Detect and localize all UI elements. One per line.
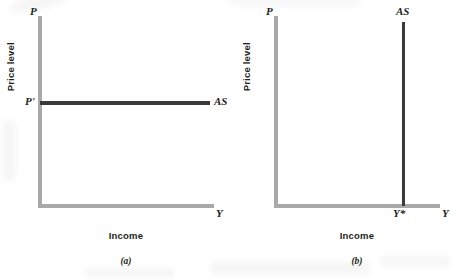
panel-b-as-curve xyxy=(402,22,405,206)
panel-a-as-curve xyxy=(40,101,210,105)
panel-a-keynesian-aggregate-supply: P P' AS Y Price level Income (a) xyxy=(0,0,230,280)
panel-a-caption: (a) xyxy=(38,256,214,266)
panel-b-output-marker: Y* xyxy=(393,208,405,219)
panel-b-as-curve-label: AS xyxy=(396,6,409,17)
panel-b-y-axis-title: Price level xyxy=(242,38,252,96)
panel-b-vertical-axis xyxy=(274,16,278,208)
panel-b-horizontal-axis xyxy=(274,204,440,208)
panel-a-y-axis-title: Price level xyxy=(6,38,16,96)
panel-a-as-curve-label: AS xyxy=(214,96,227,107)
panel-b-y-axis-symbol: P xyxy=(266,6,273,17)
panel-a-vertical-axis xyxy=(38,16,42,208)
panel-a-price-level-marker: P' xyxy=(25,96,35,107)
panel-a-x-axis-title: Income xyxy=(38,231,214,241)
panel-b-x-axis-symbol: Y xyxy=(442,208,449,219)
panel-b-x-axis-title: Income xyxy=(274,231,440,241)
panel-a-horizontal-axis xyxy=(38,204,214,208)
panel-a-y-axis-symbol: P xyxy=(30,6,37,17)
panel-b-classical-aggregate-supply: P AS Y* Y Price level Income (b) xyxy=(230,0,460,280)
panel-a-x-axis-symbol: Y xyxy=(216,208,223,219)
panel-b-caption: (b) xyxy=(274,256,440,266)
figure-canvas: P P' AS Y Price level Income (a) P AS Y*… xyxy=(0,0,460,280)
